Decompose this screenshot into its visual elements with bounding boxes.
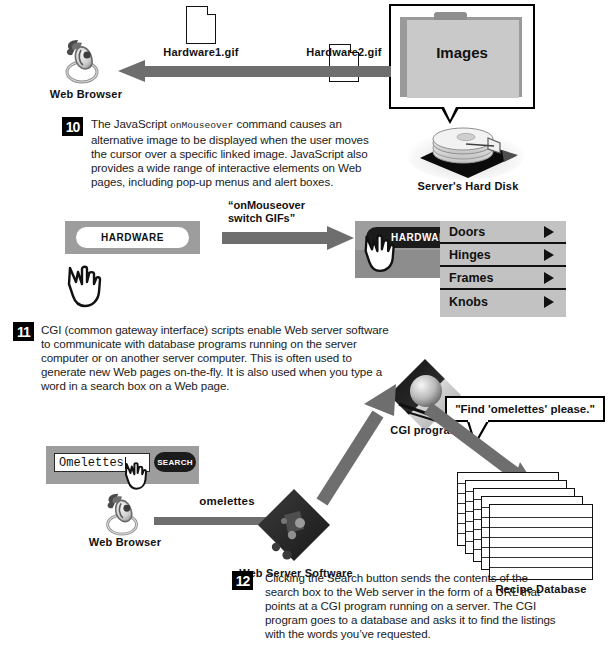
rollover-arrow-head (327, 226, 354, 250)
search-button[interactable]: SEARCH (154, 452, 196, 472)
rollover-arrow-shaft (222, 232, 327, 244)
menu-item-label: Frames (449, 271, 493, 285)
gif2-label: Hardware2.gif (298, 46, 390, 58)
web-browser-label-bottom: Web Browser (79, 536, 171, 548)
web-browser-icon (58, 34, 110, 90)
images-callout: Images (389, 4, 535, 109)
hardware-button-panel: HARDWARE (65, 221, 200, 254)
menu-item-label: Knobs (449, 295, 488, 309)
folder-label: Images (391, 44, 533, 61)
hard-disk-icon (408, 124, 528, 186)
web-browser-label: Web Browser (40, 88, 132, 100)
images-to-browser-arrow-shaft (144, 66, 391, 77)
hardware-dropdown-menu[interactable]: Doors Hinges Frames Knobs (440, 221, 566, 317)
search-input-value: Omelettes (59, 456, 124, 470)
search-panel: Omelettes SEARCH (46, 446, 199, 484)
triangle-right-icon (544, 226, 554, 238)
menu-item-label: Doors (449, 225, 485, 239)
step-10-badge: 10 (62, 117, 83, 136)
step-10-text: The JavaScript onMouseover command cause… (91, 117, 383, 189)
database-card-front (489, 504, 593, 580)
gif1-label: Hardware1.gif (155, 46, 247, 58)
step-11-badge: 11 (13, 322, 34, 341)
triangle-right-icon (544, 272, 554, 284)
onmouseover-quote-line1: “onMouseover (228, 199, 305, 212)
document-icon (186, 6, 216, 44)
hand-pointer-icon (66, 262, 106, 312)
menu-item-knobs[interactable]: Knobs (440, 290, 566, 313)
hardware-button[interactable]: HARDWARE (76, 227, 189, 248)
server-to-cgi-arrow (300, 378, 410, 512)
web-browser-icon (99, 488, 149, 542)
onmouseover-quote-line2: switch GIFs” (228, 212, 305, 225)
triangle-right-icon (544, 249, 554, 261)
step-12-text: Clicking the Search button sends the con… (265, 571, 565, 641)
hard-disk-label: Server's Hard Disk (403, 180, 533, 192)
menu-item-hinges[interactable]: Hinges (440, 244, 566, 267)
menu-item-label: Hinges (449, 248, 491, 262)
hand-pointer-icon (363, 231, 399, 277)
menu-item-doors[interactable]: Doors (440, 221, 566, 244)
step-10-mono-token: onMouseover (170, 120, 233, 131)
menu-item-frames[interactable]: Frames (440, 267, 566, 290)
images-to-browser-arrow-head (118, 60, 145, 82)
step-12-badge: 12 (232, 571, 253, 590)
onmouseover-quote: “onMouseover switch GIFs” (228, 199, 305, 225)
page-root: { "colors": { "arrow_gray": "#6e6e6e", "… (0, 0, 615, 646)
step-10-text-before: The JavaScript (91, 117, 170, 130)
callout-tail (441, 108, 459, 124)
triangle-right-icon (544, 296, 554, 308)
